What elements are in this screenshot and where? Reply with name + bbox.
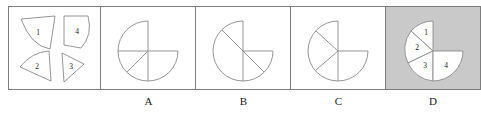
option-panel-D[interactable]: 1 2 3 4: [385, 6, 481, 90]
piece-1: 1: [21, 16, 55, 49]
piece-3: 3: [62, 53, 84, 82]
piece-4: 4: [64, 16, 89, 48]
option-B-drawing: [196, 7, 290, 89]
option-label-A: A: [101, 90, 196, 112]
option-label-C: C: [291, 90, 386, 112]
option-panel-C[interactable]: [290, 6, 386, 90]
option-D-piece-4-number: 4: [444, 61, 448, 70]
option-D-piece-4: [433, 51, 463, 81]
option-label-B: B: [196, 90, 291, 112]
pieces-panel-label: [8, 90, 101, 112]
option-D-piece-2-number: 2: [415, 43, 419, 52]
option-D-piece-1-number: 1: [424, 28, 428, 37]
piece-3-number: 3: [69, 62, 73, 71]
panel-row: 1 4 2 3: [8, 6, 481, 90]
option-D-drawing: 1 2 3 4: [386, 7, 480, 89]
option-C-drawing: [291, 7, 385, 89]
piece-4-number: 4: [75, 27, 79, 36]
option-panel-B[interactable]: [195, 6, 291, 90]
piece-1-number: 1: [36, 28, 40, 37]
option-D-piece-3-number: 3: [423, 61, 427, 70]
pieces-drawing: 1 4 2 3: [9, 7, 100, 89]
pieces-panel: 1 4 2 3: [8, 6, 101, 90]
piece-2-number: 2: [35, 62, 39, 71]
option-panel-A[interactable]: [100, 6, 196, 90]
piece-2: 2: [20, 51, 51, 81]
option-labels-row: A B C D: [8, 90, 480, 112]
option-A-drawing: [101, 7, 195, 89]
option-label-D: D: [386, 90, 480, 112]
